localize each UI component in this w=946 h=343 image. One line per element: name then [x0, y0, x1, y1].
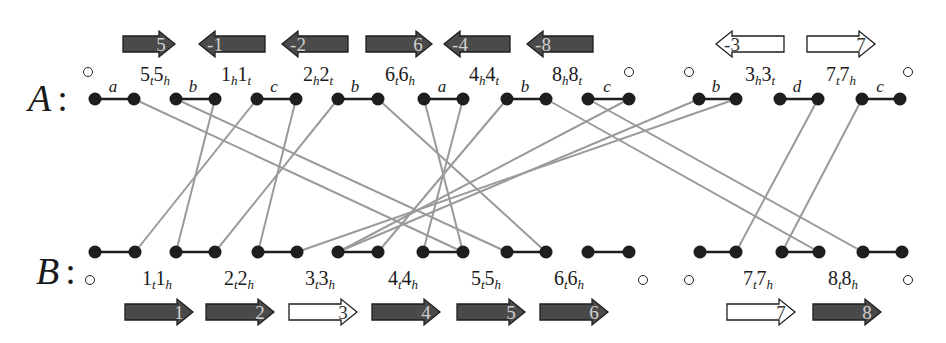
extremity-node	[813, 246, 826, 259]
gene-arrow-label: 6	[589, 302, 599, 323]
extremity-node	[417, 246, 430, 259]
gene-arrow-label: 8	[862, 302, 872, 323]
extremity-node	[623, 246, 636, 259]
gene-arrow-2: 2	[206, 299, 274, 325]
extremity-node	[170, 246, 183, 259]
adjacency-type-label: b	[351, 78, 360, 95]
extremity-node	[251, 93, 264, 106]
gene-arrow-label: -2	[290, 34, 306, 55]
extremity-node	[776, 246, 789, 259]
adjacency-edge	[215, 99, 338, 252]
gene-extremity-label: 5t5h	[471, 268, 501, 291]
telomere-marker	[638, 275, 648, 285]
adjacency-type-label: b	[521, 78, 530, 95]
extremity-node	[694, 246, 707, 259]
genome-a-label: A:	[28, 79, 68, 117]
adjacency-type-label: c	[876, 78, 884, 95]
extremity-node	[291, 246, 304, 259]
adjacency-edge	[297, 99, 736, 252]
extremity-node	[372, 93, 385, 106]
adjacency-type-label: b	[189, 78, 198, 95]
gene-arrow-label: 3	[338, 302, 348, 323]
telomere-marker	[624, 67, 634, 77]
adjacency-type-label: d	[793, 78, 802, 95]
extremity-node	[89, 246, 102, 259]
telomere-marker	[684, 275, 694, 285]
genome-comparison-diagram: 5-1-26-4-8-37 12345678	[0, 0, 946, 343]
extremity-node	[89, 93, 102, 106]
extremity-node	[540, 93, 553, 106]
adjacency-type-label: c	[270, 78, 278, 95]
extremity-node	[730, 246, 743, 259]
extremity-node	[457, 246, 470, 259]
extremity-node	[128, 93, 141, 106]
gene-arrow-label: 7	[776, 302, 786, 323]
gene-arrow-5: 5	[123, 31, 175, 57]
adjacency-edge	[378, 99, 507, 252]
extremity-node	[332, 246, 345, 259]
extremity-node	[501, 93, 514, 106]
gene-extremity-label: 3t3h	[305, 268, 335, 291]
adjacency-type-label: b	[712, 78, 721, 95]
extremity-node	[623, 93, 636, 106]
extremity-node	[774, 93, 787, 106]
extremity-node	[129, 246, 142, 259]
gene-extremity-label: 2h2t	[303, 64, 333, 87]
gene-extremity-label: 7t7h	[826, 64, 856, 87]
gene-extremity-label: 8h8t	[552, 64, 582, 87]
gene-arrow-label: 1	[174, 302, 184, 323]
extremity-node	[372, 246, 385, 259]
gene-arrow-5: 5	[457, 299, 525, 325]
gene-arrow-6: 6	[540, 299, 608, 325]
extremity-node	[812, 93, 825, 106]
extremity-node	[857, 246, 870, 259]
adjacency-edges	[134, 99, 863, 252]
extremity-node	[457, 93, 470, 106]
gene-arrow-neg3: -3	[716, 31, 784, 57]
gene-extremity-label: 3h3t	[745, 64, 775, 87]
adjacency-type-label: c	[603, 78, 611, 95]
gene-arrow-label: 5	[506, 302, 516, 323]
gene-arrow-label: 4	[421, 302, 431, 323]
gene-arrow-label: 6	[413, 34, 423, 55]
genome-a-row	[89, 93, 907, 106]
extremity-node	[582, 246, 595, 259]
genome-a-arrows: 5-1-26-4-8-37	[123, 31, 875, 57]
gene-arrow-label: 7	[856, 34, 866, 55]
gene-arrow-neg1: -1	[199, 31, 265, 57]
gene-extremity-label: 8t8h	[828, 268, 858, 291]
gene-arrow-label: -8	[535, 34, 551, 55]
gene-arrow-3: 3	[289, 299, 357, 325]
gene-extremity-label: 7t7h	[743, 268, 773, 291]
extremity-node	[894, 93, 907, 106]
telomere-marker	[684, 67, 694, 77]
extremity-node	[332, 93, 345, 106]
gene-extremity-label: 2t2h	[224, 268, 254, 291]
gene-extremity-label: 5t5h	[140, 64, 170, 87]
gene-arrow-7: 7	[807, 31, 875, 57]
extremity-node	[540, 246, 553, 259]
gene-arrow-6: 6	[366, 31, 432, 57]
gene-extremity-label: 4h4t	[469, 64, 499, 87]
genome-b-arrows: 12345678	[125, 299, 881, 325]
adjacency-edge	[338, 99, 629, 252]
extremity-node	[730, 93, 743, 106]
gene-arrow-4: 4	[372, 299, 440, 325]
gene-arrow-neg8: -8	[527, 31, 593, 57]
adjacency-edge	[135, 99, 257, 252]
gene-arrow-1: 1	[125, 299, 193, 325]
extremity-node	[582, 93, 595, 106]
adjacency-type-label: a	[109, 78, 118, 95]
gene-arrow-label: 5	[156, 34, 166, 55]
gene-extremity-label: 4t4h	[388, 268, 418, 291]
telomere-marker	[903, 275, 913, 285]
adjacency-type-label: a	[438, 78, 447, 95]
telomere-marker	[903, 67, 913, 77]
adjacency-edge	[134, 99, 463, 252]
extremity-node	[693, 93, 706, 106]
gene-extremity-label: 6t6h	[385, 64, 415, 87]
extremity-node	[209, 93, 222, 106]
gene-arrow-neg4: -4	[444, 31, 510, 57]
gene-arrow-neg2: -2	[282, 31, 348, 57]
gene-extremity-label: 1t1h	[142, 268, 172, 291]
